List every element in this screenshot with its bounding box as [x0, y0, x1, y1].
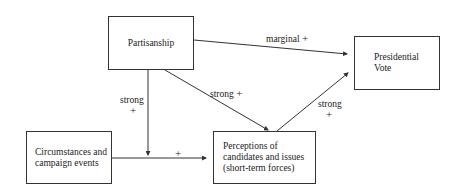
node-perceptions-line-2: candidates and issues [223, 152, 315, 163]
label-circumstances-to-perceptions-sign: + [175, 148, 181, 158]
label-strength: marginal [266, 34, 300, 44]
node-circumstances-line-2: campaign events [35, 158, 111, 169]
label-perceptions-to-vote-sign: + [326, 109, 332, 119]
label-sign: + [236, 87, 242, 99]
node-presidential-vote-line-2: Vote [374, 63, 439, 74]
edge-partisanship-to-perceptions [165, 70, 268, 130]
node-circumstances: Circumstances and campaign events [26, 131, 112, 184]
node-partisanship: Partisanship [108, 16, 194, 70]
label-partisanship-to-perceptions: strong + [210, 88, 242, 99]
label-strength: strong [210, 89, 234, 99]
node-perceptions-line-3: (short-term forces) [223, 163, 315, 174]
label-partisanship-vertical-sign: + [130, 105, 136, 115]
node-perceptions-line-1: Perceptions of [223, 141, 315, 152]
node-presidential-vote-line-1: Presidential [374, 52, 439, 63]
label-sign: + [302, 32, 308, 44]
node-partisanship-label: Partisanship [128, 38, 174, 49]
label-partisanship-to-vote: marginal + [266, 33, 308, 44]
node-presidential-vote: Presidential Vote [354, 36, 440, 90]
node-perceptions: Perceptions of candidates and issues (sh… [213, 131, 316, 184]
node-circumstances-line-1: Circumstances and [35, 147, 111, 158]
